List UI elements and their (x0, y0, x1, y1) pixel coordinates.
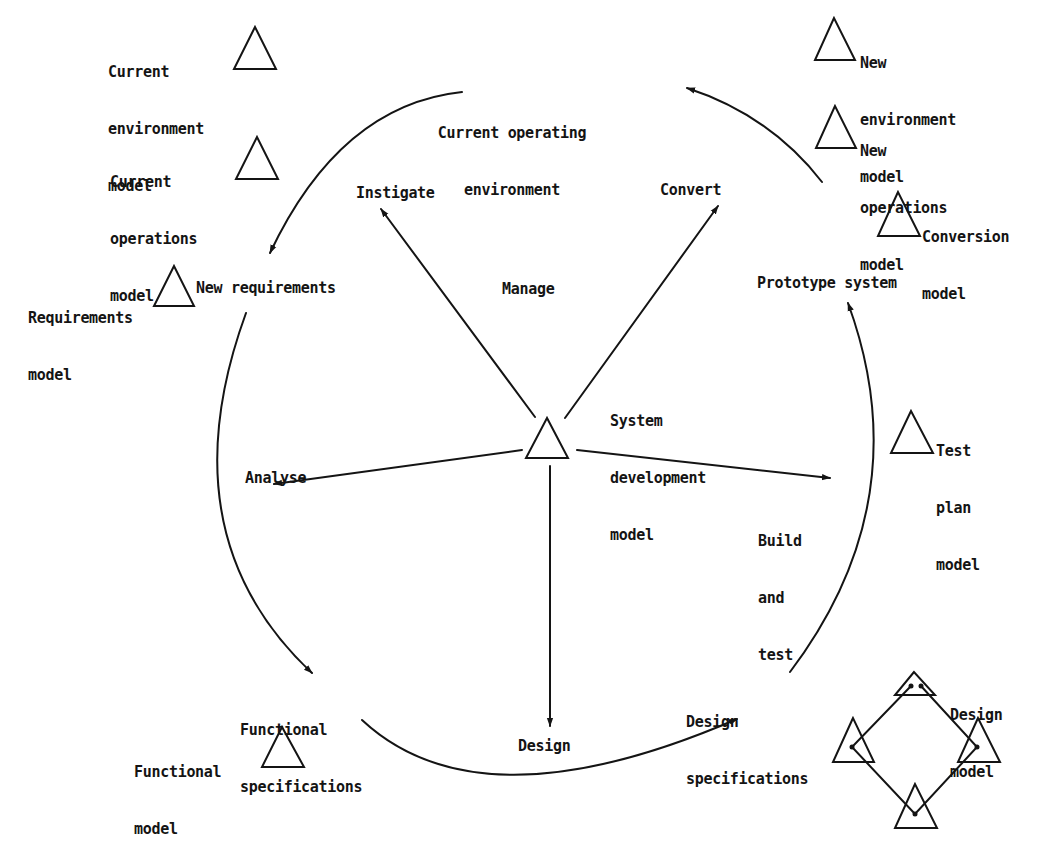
spoke-label-build-and-test: Build and test (758, 494, 802, 703)
arc-new-requirements-to-functional-specs (217, 313, 312, 673)
model-functional: Functional model (134, 725, 221, 845)
model-label-line: model (134, 820, 221, 839)
triangle-icon (234, 27, 276, 69)
model-design: Design model (950, 668, 1002, 820)
stage-functional-specifications: Functional specifications (240, 683, 362, 835)
triangle-icon (891, 411, 933, 453)
model-test-plan: Test plan model (936, 404, 980, 613)
model-label-line: New (860, 142, 947, 161)
model-label-line: operations (110, 230, 197, 249)
spoke-label-analyse: Analyse (245, 469, 306, 488)
model-label-line: Current (110, 173, 197, 192)
stage-new-requirements: New requirements (196, 279, 336, 298)
stage-label-line: specifications (240, 778, 362, 797)
spoke-label-line: Build (758, 532, 802, 551)
model-requirements: Requirements model (28, 271, 133, 423)
model-label-line: Functional (134, 763, 221, 782)
hub-system-development-model-label: System development model (610, 374, 706, 583)
model-label-line: Design (950, 706, 1002, 725)
model-label-line: Test (936, 442, 980, 461)
spoke-label-design: Design (518, 737, 570, 756)
model-label-line: model (28, 366, 133, 385)
model-label-line: Conversion (922, 228, 1009, 247)
triangle-icon (526, 418, 568, 458)
spoke-analyse (274, 450, 522, 484)
model-label-line: Requirements (28, 309, 133, 328)
stage-label-line: Current operating (407, 124, 617, 143)
arc-design-specs-to-prototype (790, 303, 874, 672)
model-label-line: model (922, 285, 1009, 304)
spoke-label-convert: Convert (660, 181, 721, 200)
system-development-cycle-diagram: Current operating environment New requir… (0, 0, 1047, 845)
model-label-line: model (950, 763, 1002, 782)
triangle-icon (236, 137, 278, 179)
spoke-label-instigate: Instigate (356, 184, 435, 203)
model-label-line: model (936, 556, 980, 575)
stage-label-line: specifications (686, 770, 808, 789)
hub-label-line: System (610, 412, 706, 431)
hub-manage-label: Manage (502, 280, 554, 299)
spoke-instigate (381, 209, 535, 417)
model-label-line: plan (936, 499, 980, 518)
model-label-line: Current (108, 63, 204, 82)
stage-label-line: Functional (240, 721, 362, 740)
spoke-label-line: test (758, 646, 802, 665)
stage-label-line: environment (407, 181, 617, 200)
stage-current-operating-environment: Current operating environment (407, 86, 617, 238)
stage-label-line: Design (686, 713, 808, 732)
triangle-icon (816, 106, 856, 148)
model-label-line: New (860, 54, 956, 73)
spoke-label-line: and (758, 589, 802, 608)
hub-label-line: development (610, 469, 706, 488)
hub-label-line: model (610, 526, 706, 545)
triangle-icon (815, 18, 855, 60)
model-conversion: Conversion model (922, 190, 1009, 342)
arc-prototype-to-current-env (687, 88, 822, 182)
